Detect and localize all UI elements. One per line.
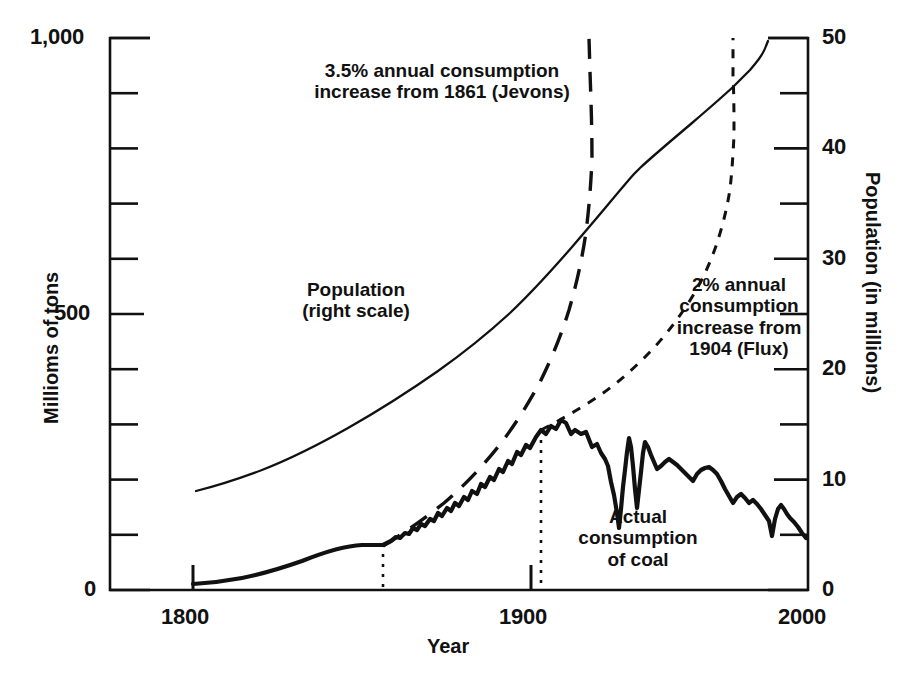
annotation-flux: 2% annual consumption increase from 1904… bbox=[655, 274, 823, 359]
y-tick-label-right-0: 0 bbox=[822, 576, 834, 602]
y-axis-title-left: Millioms of tons bbox=[40, 272, 63, 424]
y-axis-title-right: Population (in millions) bbox=[861, 172, 884, 393]
y-tick-label-left-1000: 1,000 bbox=[30, 24, 84, 50]
annotation-population: Population (right scale) bbox=[274, 279, 438, 322]
left-axis-ticks bbox=[110, 38, 150, 590]
y-tick-label-right-40: 40 bbox=[822, 134, 846, 160]
y-tick-label-right-20: 20 bbox=[822, 355, 846, 381]
y-tick-label-right-30: 30 bbox=[822, 245, 846, 271]
chart-figure: 1,000 500 0 50 40 30 20 10 0 1800 1900 2… bbox=[0, 0, 919, 681]
y-tick-label-right-50: 50 bbox=[822, 24, 846, 50]
x-axis-title: Year bbox=[427, 635, 469, 658]
x-tick-label-1800: 1800 bbox=[161, 604, 209, 630]
x-tick-label-2000: 2000 bbox=[778, 604, 826, 630]
y-tick-label-left-0: 0 bbox=[84, 576, 96, 602]
annotation-actual-consumption: Actual consumption of coal bbox=[545, 506, 731, 570]
annotation-jevons: 3.5% annual consumption increase from 18… bbox=[299, 60, 585, 103]
series-population-line bbox=[196, 41, 768, 491]
y-tick-label-right-10: 10 bbox=[822, 466, 846, 492]
x-tick-label-1900: 1900 bbox=[499, 604, 547, 630]
